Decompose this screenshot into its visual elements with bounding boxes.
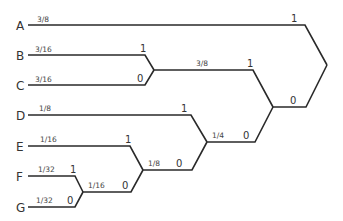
leaf-label-g: G xyxy=(16,201,25,215)
bit-e: 1 xyxy=(125,134,131,145)
bit-d: 1 xyxy=(181,103,187,114)
leaf-prob-f: 1/32 xyxy=(38,165,55,174)
leaf-label-b: B xyxy=(16,49,24,63)
edge-a xyxy=(28,25,327,65)
node-prob-fg: 1/16 xyxy=(88,181,105,190)
edge-b xyxy=(28,55,154,70)
bit-defg: 0 xyxy=(243,130,249,141)
bit-a: 1 xyxy=(291,13,297,24)
leaf-label-a: A xyxy=(16,19,25,33)
leaf-label-c: C xyxy=(16,79,24,93)
huffman-tree-diagram: A B C D E F G 3/8 3/16 3/16 1/8 1/16 1/3… xyxy=(0,0,343,221)
bit-bcdefg: 0 xyxy=(290,95,296,106)
leaf-prob-e: 1/16 xyxy=(40,135,57,144)
leaf-label-d: D xyxy=(16,109,25,123)
leaf-prob-c: 3/16 xyxy=(35,75,52,84)
leaf-label-e: E xyxy=(16,140,24,154)
node-prob-defg: 1/4 xyxy=(212,131,224,140)
bit-c: 0 xyxy=(137,73,143,84)
bit-b: 1 xyxy=(140,43,146,54)
leaf-label-f: F xyxy=(16,170,23,184)
bit-bc: 1 xyxy=(247,58,253,69)
edge-bc xyxy=(154,70,273,107)
leaf-prob-a: 3/8 xyxy=(37,15,49,24)
node-prob-bc: 3/8 xyxy=(196,59,208,68)
node-prob-efg: 1/8 xyxy=(148,159,160,168)
leaf-prob-g: 1/32 xyxy=(36,196,53,205)
edge-bcdefg xyxy=(273,65,327,107)
leaf-prob-d: 1/8 xyxy=(39,104,51,113)
bit-f: 1 xyxy=(70,164,76,175)
leaf-prob-b: 3/16 xyxy=(35,45,52,54)
bit-g: 0 xyxy=(67,195,73,206)
edge-f xyxy=(28,176,83,192)
bit-fg: 0 xyxy=(122,180,128,191)
bit-efg: 0 xyxy=(176,158,182,169)
